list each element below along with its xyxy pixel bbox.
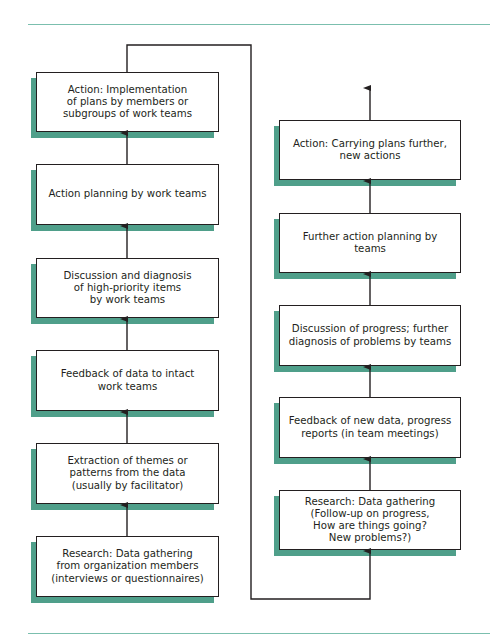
step-r4-feedback-new-data: Feedback of new data, progress reports (… xyxy=(279,397,461,458)
step-l1-implementation: Action: Implementation of plans by membe… xyxy=(36,72,219,132)
top-rule xyxy=(28,24,490,25)
step-l4-feedback: Feedback of data to intact work teams xyxy=(36,350,219,411)
step-r1-carrying-plans: Action: Carrying plans further, new acti… xyxy=(279,120,461,180)
step-r3-discussion-progress: Discussion of progress; further diagnosi… xyxy=(279,305,461,366)
bottom-rule xyxy=(28,633,490,634)
step-l5-extraction: Extraction of themes or patterns from th… xyxy=(36,443,219,504)
step-r5-research-followup: Research: Data gathering (Follow-up on p… xyxy=(279,490,461,550)
step-l3-discussion: Discussion and diagnosis of high-priorit… xyxy=(36,258,219,318)
step-l6-research: Research: Data gathering from organizati… xyxy=(36,536,219,597)
step-l2-action-planning: Action planning by work teams xyxy=(36,164,219,225)
step-r2-further-planning: Further action planning by teams xyxy=(279,213,461,273)
